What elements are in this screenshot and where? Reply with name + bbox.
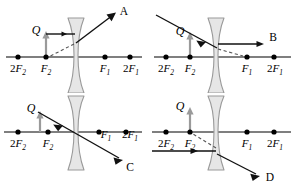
- axis-dot-2f1: [271, 129, 276, 134]
- axis-label-f2: F2: [42, 137, 54, 152]
- panel-d-canvas: 2F2 F2 F1 2F1 Q D: [148, 94, 297, 187]
- refracted-ray-arrowhead: [107, 13, 117, 22]
- axis-label-f2: F2: [184, 137, 196, 152]
- diverging-lens: [68, 18, 84, 93]
- axis-dot-2f2: [163, 54, 168, 59]
- answer-label-d: D: [266, 171, 274, 183]
- panel-c-canvas: 2F2 F2 F1 2F1 Q C: [0, 94, 148, 187]
- axis-label-2f1: 2F1: [267, 62, 283, 77]
- dashed-extension-ray: [49, 44, 75, 57]
- axis-label-2f2: 2F2: [10, 137, 26, 152]
- panel-a: 2F2 F2 F1 2F1 Q A: [0, 0, 148, 93]
- axis-dot-f1: [244, 129, 249, 134]
- axis-label-f2: F2: [40, 62, 52, 77]
- refracted-ray-arrowhead: [257, 41, 265, 47]
- axis-label-2f1: 2F1: [267, 137, 283, 152]
- panel-b-canvas: 2F2 F2 F1 2F1 Q B: [148, 0, 297, 93]
- central-ray-arrowhead-1: [53, 125, 63, 132]
- object-label-q: Q: [32, 23, 41, 37]
- axis-dot-f1: [102, 54, 107, 59]
- panel-c: 2F2 F2 F1 2F1 Q C: [0, 94, 148, 187]
- panel-b: 2F2 F2 F1 2F1 Q B: [148, 0, 296, 93]
- axis-dot-f1: [244, 54, 249, 59]
- incident-ray: [156, 15, 217, 48]
- answer-label-c: C: [126, 161, 134, 173]
- axis-label-2f2: 2F2: [10, 62, 26, 77]
- object-label-q: Q: [176, 24, 185, 38]
- axis-label-f1: F1: [241, 137, 252, 152]
- object-arrow-head: [42, 31, 49, 39]
- central-ray-arrowhead-2: [114, 158, 124, 165]
- answer-label-b: B: [269, 31, 277, 43]
- axis-dot-f2: [187, 129, 192, 134]
- axis-dot-2f2: [163, 129, 168, 134]
- panel-d: 2F2 F2 F1 2F1 Q D: [148, 94, 296, 187]
- object-label-q: Q: [27, 101, 36, 115]
- axis-dot-f2: [43, 54, 48, 59]
- axis-label-f1: F1: [99, 62, 110, 77]
- axis-label-2f1: 2F1: [123, 62, 139, 77]
- refracted-ray: [217, 154, 256, 174]
- axis-label-f1: F1: [100, 128, 111, 143]
- diverging-lens: [208, 18, 224, 93]
- axis-dot-2f1: [271, 54, 276, 59]
- axis-label-2f2: 2F2: [158, 137, 174, 152]
- answer-label-a: A: [120, 5, 129, 17]
- axis-dot-2f2: [15, 54, 20, 59]
- axis-label-2f1: 2F1: [122, 128, 138, 143]
- dashed-extension-ray: [193, 134, 216, 148]
- axis-dot-f2: [45, 129, 50, 134]
- refracted-ray-arrowhead: [250, 174, 260, 181]
- incident-ray-arrowhead: [62, 32, 68, 37]
- object-label-q: Q: [176, 99, 185, 113]
- axis-label-2f2: 2F2: [158, 62, 174, 77]
- dashed-extension-ray: [218, 49, 243, 56]
- axis-dot-f2: [187, 54, 192, 59]
- axis-dot-2f1: [127, 54, 132, 59]
- axis-dot-2f2: [15, 129, 20, 134]
- axis-label-f2: F2: [184, 62, 196, 77]
- object-arrow-head: [186, 107, 193, 115]
- panel-a-canvas: 2F2 F2 F1 2F1 Q A: [0, 0, 148, 93]
- axis-label-f1: F1: [241, 62, 252, 77]
- figure-root: 2F2 F2 F1 2F1 Q A: [0, 0, 297, 187]
- diverging-lens: [208, 96, 224, 170]
